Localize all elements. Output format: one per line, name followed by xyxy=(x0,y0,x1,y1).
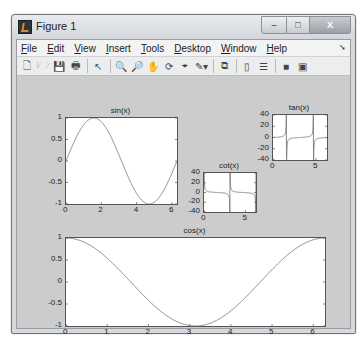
toolbar-separator xyxy=(213,59,214,73)
toolbar-separator xyxy=(110,59,111,73)
maximize-icon: □ xyxy=(295,20,300,30)
y-tick-label: -40 xyxy=(188,206,200,215)
figure-window: Figure 1 – □ X FileEditViewInsertToolsDe… xyxy=(11,14,356,334)
show-plot-tools-button[interactable]: ▣ xyxy=(295,59,309,73)
rotate-3d-icon: ⟳ xyxy=(165,61,173,72)
x-tick-label: 2 xyxy=(98,205,102,214)
insert-legend-button[interactable]: ☰ xyxy=(256,59,270,73)
y-tick-label: 40 xyxy=(191,167,200,176)
zoom-in-icon: 🔍 xyxy=(115,61,127,72)
y-tick-label: 0 xyxy=(58,276,62,285)
menu-window[interactable]: Window xyxy=(221,43,257,54)
y-tick-label: 0 xyxy=(196,187,200,196)
brush-button[interactable]: ✎▾ xyxy=(194,59,208,73)
menu-edit[interactable]: Edit xyxy=(47,43,64,54)
x-tick-label: 1 xyxy=(104,327,108,336)
y-tick-label: 20 xyxy=(260,120,269,129)
dock-arrow-icon[interactable]: ➘ xyxy=(339,43,346,52)
figure-canvas[interactable]: sin(x)0246-1-0.500.51tan(x)05-40-2002040… xyxy=(17,76,350,328)
tan-curve xyxy=(273,115,327,160)
save-figure-button[interactable]: 💾 xyxy=(52,59,66,73)
edit-plot-icon: ↖ xyxy=(94,61,102,72)
y-tick-label: -1 xyxy=(55,320,62,329)
x-tick-label: 2 xyxy=(145,327,149,336)
pan-button[interactable]: ✋ xyxy=(146,59,160,73)
menu-file[interactable]: File xyxy=(21,43,37,54)
zoom-in-button[interactable]: 🔍 xyxy=(114,59,128,73)
y-tick-label: -0.5 xyxy=(48,177,62,186)
toolbar-separator xyxy=(236,59,237,73)
window-client: FileEditViewInsertToolsDesktopWindowHelp… xyxy=(16,39,351,329)
figure-toolbar: 🗋🗁💾🖶↖🔍🔎✋⟳⌖✎▾⧉▯☰■▣ xyxy=(17,57,350,76)
y-tick-label: 0 xyxy=(265,132,269,141)
print-figure-icon: 🖶 xyxy=(71,58,80,75)
rotate-3d-button[interactable]: ⟳ xyxy=(162,59,176,73)
close-button[interactable]: X xyxy=(310,16,351,34)
link-plot-icon: ⧉ xyxy=(221,60,228,72)
new-figure-button[interactable]: 🗋 xyxy=(20,59,34,73)
menu-desktop[interactable]: Desktop xyxy=(174,43,211,54)
cos-curve xyxy=(66,238,325,326)
x-tick-label: 6 xyxy=(310,327,314,336)
minimize-icon: – xyxy=(271,20,276,30)
menu-insert[interactable]: Insert xyxy=(106,43,131,54)
link-plot-button[interactable]: ⧉ xyxy=(217,59,231,73)
insert-legend-icon: ☰ xyxy=(259,61,268,72)
hide-plot-tools-button[interactable]: ■ xyxy=(279,59,293,73)
open-file-icon: 🗁 xyxy=(37,58,49,75)
zoom-out-button[interactable]: 🔎 xyxy=(130,59,144,73)
axes-cos[interactable] xyxy=(65,237,326,327)
x-tick-label: 0 xyxy=(270,161,274,170)
axes-tan[interactable] xyxy=(272,114,328,161)
x-tick-label: 3 xyxy=(187,327,191,336)
axes-sin[interactable] xyxy=(65,117,178,205)
brush-icon: ✎▾ xyxy=(195,61,208,72)
x-tick-label: 5 xyxy=(242,213,246,222)
open-file-button[interactable]: 🗁 xyxy=(36,59,50,73)
menu-view[interactable]: View xyxy=(74,43,96,54)
menu-bar: FileEditViewInsertToolsDesktopWindowHelp… xyxy=(17,40,350,57)
toolbar-separator xyxy=(87,59,88,73)
x-tick-label: 0 xyxy=(201,213,205,222)
zoom-out-icon: 🔎 xyxy=(131,61,143,72)
y-tick-label: 20 xyxy=(191,177,200,186)
menu-tools[interactable]: Tools xyxy=(141,43,164,54)
axes-title: cot(x) xyxy=(219,161,239,170)
close-icon: X xyxy=(327,20,333,30)
hide-plot-tools-icon: ■ xyxy=(283,61,289,72)
data-cursor-button[interactable]: ⌖ xyxy=(178,59,192,73)
y-tick-label: 1 xyxy=(58,232,62,241)
toolbar-separator xyxy=(275,59,276,73)
edit-plot-button[interactable]: ↖ xyxy=(91,59,105,73)
y-tick-label: 0.5 xyxy=(51,134,62,143)
new-figure-icon: 🗋 xyxy=(23,58,31,75)
cot-curve xyxy=(204,173,256,212)
y-tick-label: 1 xyxy=(58,112,62,121)
show-plot-tools-icon: ▣ xyxy=(298,61,307,72)
y-tick-label: 0 xyxy=(58,155,62,164)
axes-title: tan(x) xyxy=(289,103,309,112)
x-tick-label: 4 xyxy=(134,205,138,214)
y-tick-label: -1 xyxy=(55,198,62,207)
axes-title: cos(x) xyxy=(184,226,206,235)
print-figure-button[interactable]: 🖶 xyxy=(68,59,82,73)
y-tick-label: 0.5 xyxy=(51,254,62,263)
axes-cot[interactable] xyxy=(203,172,257,213)
title-bar[interactable]: Figure 1 – □ X xyxy=(12,15,355,39)
insert-colorbar-button[interactable]: ▯ xyxy=(240,59,254,73)
menu-help[interactable]: Help xyxy=(267,43,288,54)
x-tick-label: 6 xyxy=(169,205,173,214)
x-tick-label: 5 xyxy=(313,161,317,170)
window-controls: – □ X xyxy=(261,16,351,34)
minimize-button[interactable]: – xyxy=(261,16,287,34)
pan-icon: ✋ xyxy=(147,61,159,72)
x-tick-label: 0 xyxy=(63,327,67,336)
y-tick-label: 40 xyxy=(260,109,269,118)
axes-title: sin(x) xyxy=(111,106,131,115)
maximize-button[interactable]: □ xyxy=(287,16,310,34)
x-tick-label: 4 xyxy=(228,327,232,336)
y-tick-label: -20 xyxy=(188,196,200,205)
y-tick-label: -0.5 xyxy=(48,298,62,307)
save-figure-icon: 💾 xyxy=(53,61,65,72)
x-tick-label: 5 xyxy=(269,327,273,336)
